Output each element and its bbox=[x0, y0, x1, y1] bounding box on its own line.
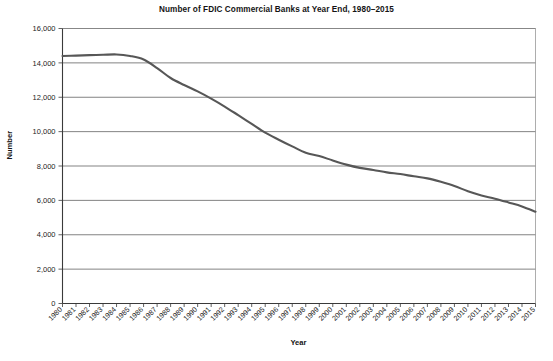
series-line bbox=[63, 54, 536, 211]
y-tick-label: 10,000 bbox=[33, 127, 56, 136]
x-tick-label: 2015 bbox=[519, 305, 537, 323]
y-tick-label: 12,000 bbox=[33, 93, 56, 102]
y-tick-label: 14,000 bbox=[33, 59, 56, 68]
line-chart-plot: 02,0004,0006,0008,00010,00012,00014,0001… bbox=[0, 0, 553, 361]
y-tick-label: 2,000 bbox=[37, 265, 56, 274]
data-series-group bbox=[63, 54, 536, 211]
chart-figure: Number of FDIC Commercial Banks at Year … bbox=[0, 0, 553, 361]
x-axis-ticks: 1980198119821983198419851986198719881989… bbox=[46, 304, 537, 323]
y-tick-label: 16,000 bbox=[33, 24, 56, 33]
y-tick-label: 8,000 bbox=[37, 162, 56, 171]
y-tick-label: 4,000 bbox=[37, 230, 56, 239]
y-tick-label: 6,000 bbox=[37, 196, 56, 205]
x-axis-title: Year bbox=[62, 338, 535, 347]
y-axis-ticks: 02,0004,0006,0008,00010,00012,00014,0001… bbox=[33, 24, 63, 308]
